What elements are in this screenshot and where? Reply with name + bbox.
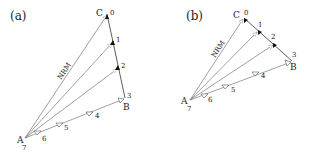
vector-diagram: (a) C B A 0 1 2 3 4 5 6 7 NRM (b) [0, 0, 313, 157]
panel-a-label: (a) [10, 9, 27, 23]
step-3-b: 3 [292, 51, 296, 59]
arrow-4-a [86, 112, 93, 116]
step-0-a: 0 [110, 9, 114, 17]
vertex-b-b: B [290, 62, 297, 72]
arrow-6-b [201, 94, 208, 98]
nrm-label-a: NRM [56, 61, 73, 81]
step-0-b: 0 [244, 9, 248, 17]
step-5-a: 5 [64, 124, 68, 132]
vertex-b-a: B [123, 102, 130, 112]
step-5-b: 5 [231, 86, 235, 94]
solid-arrow-1-b [258, 30, 262, 35]
vertex-c-b: C [233, 10, 240, 20]
step-2-a: 2 [121, 62, 125, 70]
step-4-b: 4 [261, 72, 266, 80]
step-7-b: 7 [187, 105, 191, 113]
line-c-b-a [107, 14, 125, 98]
arrow-5-b [222, 85, 229, 89]
step-6-a: 6 [42, 135, 47, 143]
solid-arrow-2-a [115, 65, 120, 70]
step-3-a: 3 [127, 92, 131, 100]
arrow-4-b [252, 72, 259, 76]
nrm-label-b: NRM [210, 39, 227, 59]
step-6-b: 6 [208, 96, 213, 104]
step-4-a: 4 [95, 112, 100, 120]
vector-a-1 [25, 43, 112, 138]
solid-arrow-0-b [244, 18, 248, 23]
step-1-b: 1 [258, 21, 262, 29]
step-7-a: 7 [22, 144, 26, 152]
step-2-b: 2 [271, 33, 275, 41]
panel-b-label: (b) [186, 9, 203, 23]
vertex-c-a: C [96, 8, 103, 18]
step-1-a: 1 [116, 36, 120, 44]
panel-a: (a) C B A 0 1 2 3 4 5 6 7 NRM [10, 8, 131, 152]
panel-b: (b) C B A 0 1 2 3 4 5 6 7 NRM [180, 9, 297, 113]
line-c-b-b [244, 18, 292, 61]
vector-a-2 [25, 69, 117, 138]
